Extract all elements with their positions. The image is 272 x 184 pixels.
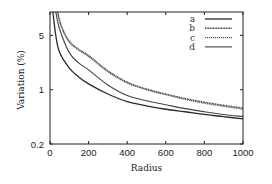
y-axis: 0.215 <box>31 30 243 150</box>
x-tick-label: 400 <box>119 147 135 158</box>
x-tick-label: 1000 <box>232 147 253 158</box>
y-tick-label: 0.2 <box>31 139 44 150</box>
series-line-c <box>57 12 243 109</box>
legend-label-d: d <box>189 42 195 52</box>
series-line-b <box>58 12 243 108</box>
y-tick-label: 1 <box>39 84 44 95</box>
x-tick-label: 600 <box>158 147 174 158</box>
x-axis-title: Radius <box>131 163 163 173</box>
y-axis-title: Variation (%) <box>16 50 26 111</box>
plot-frame <box>50 12 243 144</box>
chart: 02004006008001000 0.215 Radius Variation… <box>0 0 272 184</box>
curves-group <box>53 12 243 119</box>
x-tick-label: 0 <box>47 147 52 158</box>
x-tick-label: 200 <box>81 147 97 158</box>
x-axis: 02004006008001000 <box>47 12 253 158</box>
y-tick-label: 5 <box>39 30 44 41</box>
legend: abcd <box>189 14 232 52</box>
x-tick-label: 800 <box>196 147 212 158</box>
